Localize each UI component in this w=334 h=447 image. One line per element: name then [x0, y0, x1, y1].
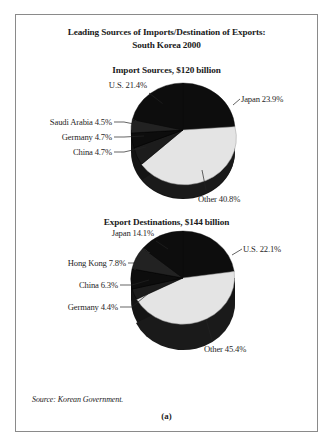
- pie-chart-export-destinations: Japan 14.1% U.S. 22.1% Hong Kong 7.8% Ch…: [16, 227, 317, 363]
- pie-label-other: Other 45.4%: [204, 344, 246, 354]
- figure-title-line-1: Leading Sources of Imports/Destination o…: [32, 26, 301, 39]
- figure-box: Leading Sources of Imports/Destination o…: [15, 14, 318, 432]
- leader-line-us: [232, 249, 242, 255]
- pie-chart-import-sources: U.S. 21.4% Japan 23.9% Saudi Arabia 4.5%…: [16, 75, 317, 211]
- pie-slice-us: [183, 231, 234, 278]
- chart-import-sources: Import Sources, $120 billion: [16, 65, 317, 211]
- figure-title-line-2: South Korea 2000: [32, 39, 301, 52]
- pie-label-japan: Japan 23.9%: [241, 94, 283, 104]
- pie-label-other: Other 40.8%: [198, 194, 240, 204]
- pie-label-germany: Germany 4.4%: [68, 302, 118, 312]
- pie-slice-japan: [183, 83, 235, 130]
- pie-label-us: U.S. 22.1%: [243, 244, 281, 254]
- figure-part-label: (a): [16, 411, 317, 421]
- pie-label-saudi-arabia: Saudi Arabia 4.5%: [50, 117, 112, 127]
- figure-title: Leading Sources of Imports/Destination o…: [32, 26, 301, 51]
- leader-line-japan: [233, 99, 240, 105]
- chart-export-destinations: Export Destinations, $144 billion: [16, 217, 317, 363]
- pie-label-japan: Japan 14.1%: [112, 228, 154, 238]
- chart-title-export-destinations: Export Destinations, $144 billion: [16, 217, 317, 227]
- pie-label-us: U.S. 21.4%: [109, 80, 147, 90]
- pie-label-germany: Germany 4.7%: [62, 132, 112, 142]
- pie-label-hong-kong: Hong Kong 7.8%: [68, 258, 126, 268]
- pie-label-china: China 6.3%: [79, 280, 118, 290]
- chart-title-import-sources: Import Sources, $120 billion: [16, 65, 317, 75]
- pie-label-china: China 4.7%: [73, 147, 112, 157]
- source-note: Source: Korean Government.: [32, 395, 123, 404]
